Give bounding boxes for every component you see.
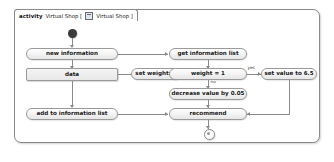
node-set-value-label: set value to 6.5 [264,71,313,77]
edge-set-value-down [289,80,290,114]
activity-frame-header[interactable]: activity Virtual Shop [ Virtual Shop ] [14,9,138,21]
arrowhead-add-list-to-recommend [165,112,168,116]
edge-label-yes: yes [247,66,255,70]
node-decrease-value[interactable]: decrease value by 0.05 [169,88,247,100]
node-add-to-information-list-label: add to information list [37,111,108,117]
node-new-information-label: new information [46,51,98,57]
edge-label-no: no [210,80,216,84]
node-set-value[interactable]: set value to 6.5 [261,68,317,80]
arrowhead-new-information-to-get-list [165,52,168,56]
frame-name: Virtual Shop [ [46,13,83,19]
diagram-icon [85,12,93,20]
node-weight-equals-1[interactable]: weight = 1 [169,68,247,80]
node-new-information[interactable]: new information [26,48,118,60]
final-node[interactable] [204,129,215,140]
node-weight-equals-1-label: weight = 1 [191,71,225,77]
node-add-to-information-list[interactable]: add to information list [26,108,118,120]
node-get-information-list-label: get information list [177,51,238,57]
node-recommend-label: recommend [189,111,226,117]
node-decrease-value-label: decrease value by 0.05 [172,91,245,97]
frame-qualifier: Virtual Shop ] [96,13,133,19]
initial-node[interactable] [68,29,77,38]
arrowhead-set-value-to-recommend [247,112,250,116]
edge-new-information-to-get-list [118,54,168,55]
frame-keyword: activity [19,13,43,19]
node-data-label: data [65,72,79,78]
node-data[interactable]: data [26,68,118,81]
edge-data-to-set-weight [118,74,131,75]
edge-add-list-to-recommend [118,114,168,115]
activity-diagram-canvas: activity Virtual Shop [ Virtual Shop ] n… [0,0,334,162]
node-recommend[interactable]: recommend [169,108,247,120]
node-get-information-list[interactable]: get information list [169,48,247,60]
edge-set-value-to-recommend [247,114,290,115]
edge-data-to-add-to-information-list [72,81,73,107]
